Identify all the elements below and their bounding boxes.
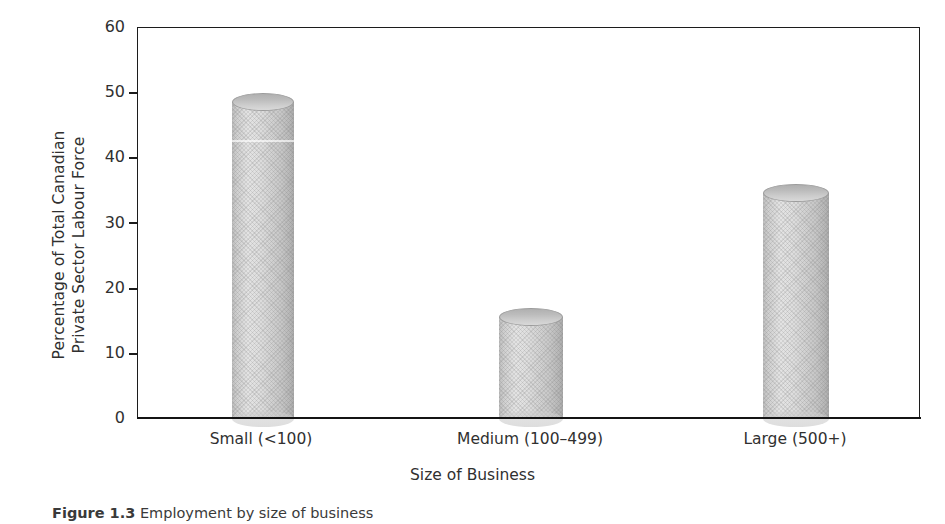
bar-large-texture xyxy=(763,193,829,419)
y-tick-label-30: 30 xyxy=(79,215,125,231)
bar-large-body xyxy=(763,193,829,419)
figure-caption-text: Employment by size of business xyxy=(140,505,373,521)
bar-large[interactable] xyxy=(763,184,829,419)
bar-small[interactable] xyxy=(232,93,294,419)
bar-small-top-ellipse xyxy=(232,93,294,111)
bar-small-texture xyxy=(232,102,294,419)
bar-medium[interactable] xyxy=(499,308,563,419)
x-category-label-small: Small (<100) xyxy=(161,430,361,448)
y-tick-label-10: 10 xyxy=(79,345,125,361)
bar-small-body xyxy=(232,102,294,419)
bar-medium-body xyxy=(499,317,563,419)
bar-medium-top-ellipse xyxy=(499,308,563,326)
y-tick-label-20: 20 xyxy=(79,280,125,296)
y-tick-label-60: 60 xyxy=(79,19,125,35)
x-axis-baseline xyxy=(137,417,921,419)
x-category-label-large: Large (500+) xyxy=(695,430,895,448)
x-axis-title: Size of Business xyxy=(0,466,945,484)
figure-caption: Figure 1.3 Employment by size of busines… xyxy=(52,504,932,524)
bar-large-top-ellipse xyxy=(763,184,829,202)
plot-area xyxy=(137,27,920,418)
y-axis-title: Percentage of Total Canadian Private Sec… xyxy=(46,45,92,445)
y-tick-label-50: 50 xyxy=(79,84,125,100)
x-category-label-medium: Medium (100–499) xyxy=(430,430,630,448)
y-tick-label-40: 40 xyxy=(79,149,125,165)
y-axis-title-line-1: Percentage of Total Canadian xyxy=(49,130,69,359)
y-tick-label-0: 0 xyxy=(79,410,125,426)
bar-small-highlight-band xyxy=(232,140,294,142)
bar-medium-texture xyxy=(499,317,563,419)
y-axis-title-line-2: Private Sector Labour Force xyxy=(69,137,89,354)
figure-caption-number: Figure 1.3 xyxy=(52,505,135,521)
